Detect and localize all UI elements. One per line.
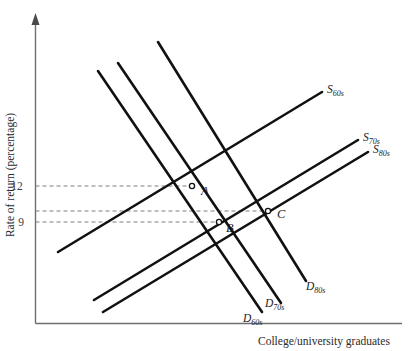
demand-curve-d80s <box>158 42 306 281</box>
curve-label-s60s: S60s <box>327 83 344 98</box>
curve-label-d70s: D70s <box>264 297 284 312</box>
point-marker-c <box>265 208 270 213</box>
curve-label-d80s: D80s <box>305 280 325 295</box>
point-label-a: A <box>200 184 209 198</box>
point-marker-a <box>189 183 194 188</box>
supply-curve-s70s <box>94 140 358 300</box>
chart-axes <box>32 13 403 324</box>
demand-curve-d70s <box>118 63 281 303</box>
supply-curve-s60s <box>58 92 322 252</box>
point-label-b: B <box>226 221 234 235</box>
curve-label-s80s: S80s <box>373 143 390 158</box>
curve-label-s80s-sub: 80s <box>379 149 390 158</box>
demand-curves <box>98 42 306 312</box>
curve-label-d60s-sub: 60s <box>251 318 262 327</box>
curve-label-s60s-sub: 60s <box>333 89 344 98</box>
point-marker-b <box>216 219 221 224</box>
point-label-c: C <box>277 207 286 221</box>
supply-curve-s80s <box>103 152 368 312</box>
curve-labels: S60s S70s S80s D60s D70s D80s <box>242 83 390 327</box>
demand-curve-d60s <box>98 71 262 312</box>
y-axis-arrow-icon <box>32 13 40 25</box>
curve-label-d80s-sub: 80s <box>314 286 325 295</box>
rate-of-return-chart: 12 9 A B C S60s S70s S80s D60s D70s <box>0 0 408 351</box>
x-axis-title: College/university graduates <box>258 335 390 348</box>
curve-label-d60s: D60s <box>242 312 262 327</box>
curve-label-d70s-sub: 70s <box>273 303 284 312</box>
y-axis-title: Rate of return (percentage) <box>4 113 17 237</box>
y-tick-label-9: 9 <box>18 216 24 228</box>
